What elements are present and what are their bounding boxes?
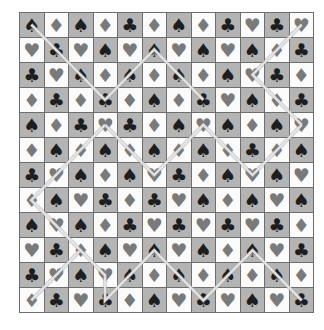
board-cell[interactable]: ♥ [167, 38, 191, 62]
board-cell[interactable]: ♦ [290, 63, 314, 87]
board-cell[interactable]: ♠ [94, 138, 118, 162]
board-cell[interactable]: ♠ [192, 188, 216, 212]
board-cell[interactable]: ♣ [290, 88, 314, 112]
board-cell[interactable]: ♥ [20, 38, 44, 62]
board-cell[interactable]: ♦ [94, 63, 118, 87]
board-cell[interactable]: ♥ [265, 288, 289, 312]
board-cell[interactable]: ♣ [94, 188, 118, 212]
board-cell[interactable]: ♥ [45, 163, 69, 187]
board-cell[interactable]: ♥ [216, 88, 240, 112]
board-cell[interactable]: ♠ [241, 188, 265, 212]
board-cell[interactable]: ♠ [143, 288, 167, 312]
board-cell[interactable]: ♣ [241, 138, 265, 162]
board-cell[interactable]: ♠ [69, 213, 93, 237]
board-cell[interactable]: ♥ [192, 113, 216, 137]
board-cell[interactable]: ♠ [20, 113, 44, 137]
board-cell[interactable]: ♠ [241, 38, 265, 62]
board-cell[interactable]: ♣ [94, 288, 118, 312]
board-cell[interactable]: ♦ [94, 13, 118, 37]
board-cell[interactable]: ♠ [69, 63, 93, 87]
board-cell[interactable]: ♠ [143, 88, 167, 112]
board-cell[interactable]: ♣ [265, 213, 289, 237]
board-cell[interactable]: ♥ [167, 188, 191, 212]
board-cell[interactable]: ♦ [265, 88, 289, 112]
board-cell[interactable]: ♥ [69, 38, 93, 62]
board-cell[interactable]: ♠ [45, 188, 69, 212]
board-cell[interactable]: ♣ [69, 113, 93, 137]
board-cell[interactable]: ♠ [241, 288, 265, 312]
board-cell[interactable]: ♦ [20, 88, 44, 112]
board-cell[interactable]: ♠ [216, 113, 240, 137]
board-cell[interactable]: ♣ [290, 288, 314, 312]
board-cell[interactable]: ♠ [192, 238, 216, 262]
board-cell[interactable]: ♥ [241, 163, 265, 187]
board-cell[interactable]: ♠ [290, 188, 314, 212]
board-cell[interactable]: ♣ [118, 113, 142, 137]
board-cell[interactable]: ♠ [216, 163, 240, 187]
board-cell[interactable]: ♣ [20, 163, 44, 187]
board-cell[interactable]: ♥ [69, 288, 93, 312]
board-cell[interactable]: ♦ [192, 63, 216, 87]
board-cell[interactable]: ♥ [241, 213, 265, 237]
board-cell[interactable]: ♠ [241, 88, 265, 112]
board-cell[interactable]: ♦ [143, 13, 167, 37]
board-cell[interactable]: ♦ [45, 113, 69, 137]
board-cell[interactable]: ♣ [118, 213, 142, 237]
board-cell[interactable]: ♥ [118, 38, 142, 62]
board-cell[interactable]: ♦ [20, 138, 44, 162]
board-cell[interactable]: ♥ [69, 188, 93, 212]
board-cell[interactable]: ♦ [20, 288, 44, 312]
board-cell[interactable]: ♣ [45, 88, 69, 112]
board-cell[interactable]: ♠ [20, 213, 44, 237]
board-cell[interactable]: ♠ [167, 263, 191, 287]
board-cell[interactable]: ♠ [94, 38, 118, 62]
board-cell[interactable]: ♠ [265, 163, 289, 187]
board-cell[interactable]: ♦ [216, 138, 240, 162]
board-cell[interactable]: ♣ [20, 263, 44, 287]
board-cell[interactable]: ♥ [45, 263, 69, 287]
board-cell[interactable]: ♦ [45, 13, 69, 37]
board-cell[interactable]: ♦ [143, 263, 167, 287]
board-cell[interactable]: ♣ [94, 88, 118, 112]
board-cell[interactable]: ♦ [69, 238, 93, 262]
board-cell[interactable]: ♣ [167, 163, 191, 187]
board-cell[interactable]: ♠ [167, 113, 191, 137]
board-cell[interactable]: ♠ [143, 138, 167, 162]
board-cell[interactable]: ♠ [265, 263, 289, 287]
board-cell[interactable]: ♦ [192, 263, 216, 287]
board-cell[interactable]: ♥ [143, 163, 167, 187]
board-cell[interactable]: ♠ [118, 163, 142, 187]
board-cell[interactable]: ♦ [290, 213, 314, 237]
board-cell[interactable]: ♠ [94, 238, 118, 262]
board-cell[interactable]: ♦ [265, 38, 289, 62]
board-cell[interactable]: ♣ [216, 213, 240, 237]
board-cell[interactable]: ♦ [192, 13, 216, 37]
board-cell[interactable]: ♥ [45, 63, 69, 87]
board-cell[interactable]: ♣ [45, 38, 69, 62]
board-cell[interactable]: ♠ [167, 13, 191, 37]
board-cell[interactable]: ♠ [118, 63, 142, 87]
board-cell[interactable]: ♥ [118, 238, 142, 262]
board-cell[interactable]: ♥ [290, 163, 314, 187]
board-cell[interactable]: ♣ [216, 13, 240, 37]
board-cell[interactable]: ♣ [265, 13, 289, 37]
board-cell[interactable]: ♦ [118, 88, 142, 112]
board-cell[interactable]: ♥ [290, 113, 314, 137]
board-cell[interactable]: ♥ [216, 288, 240, 312]
board-cell[interactable]: ♠ [265, 113, 289, 137]
board-cell[interactable]: ♦ [94, 213, 118, 237]
board-cell[interactable]: ♦ [118, 188, 142, 212]
board-cell[interactable]: ♦ [241, 113, 265, 137]
board-cell[interactable]: ♣ [192, 88, 216, 112]
board-cell[interactable]: ♠ [143, 238, 167, 262]
board-cell[interactable]: ♣ [20, 63, 44, 87]
board-cell[interactable]: ♦ [69, 88, 93, 112]
board-cell[interactable]: ♠ [45, 138, 69, 162]
board-cell[interactable]: ♦ [216, 238, 240, 262]
board-cell[interactable]: ♣ [192, 288, 216, 312]
board-cell[interactable]: ♦ [69, 138, 93, 162]
board-cell[interactable]: ♥ [192, 213, 216, 237]
board-cell[interactable]: ♦ [216, 188, 240, 212]
board-cell[interactable]: ♦ [241, 263, 265, 287]
board-cell[interactable]: ♥ [167, 288, 191, 312]
